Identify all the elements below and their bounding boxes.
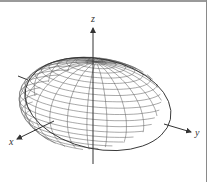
figure-frame: z x y — [0, 0, 212, 182]
ellipsoid-plot: z x y — [0, 0, 212, 182]
x-axis — [17, 121, 54, 139]
y-axis-label: y — [194, 127, 200, 138]
x-axis-label: x — [8, 136, 14, 147]
y-axis — [164, 124, 191, 132]
ellipsoid-mesh — [16, 45, 179, 164]
z-axis-label: z — [90, 13, 95, 24]
